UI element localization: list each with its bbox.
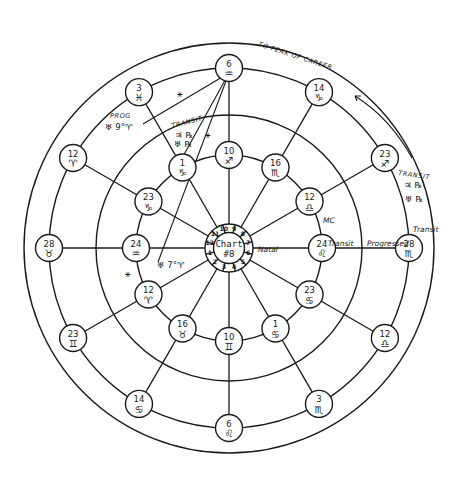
zodiac-sign-icon: ♋ <box>135 404 144 415</box>
zodiac-sign-icon: ♎ <box>380 338 389 349</box>
outer-node: 12♈ <box>60 145 87 172</box>
outer-node: 3♏ <box>306 390 333 417</box>
zodiac-sign-icon: ♏ <box>315 404 324 415</box>
outer-node: 14♋ <box>126 390 153 417</box>
house-number-11: 11 <box>211 230 220 237</box>
degree-value: 16 <box>270 158 281 168</box>
chart-title-line1: Chart <box>215 239 242 249</box>
sextile-symbol-1: ⚹ <box>177 89 183 99</box>
degree-value: 12 <box>143 285 154 295</box>
house-number-7: 7 <box>246 239 250 246</box>
outer-node: 3♓ <box>126 79 153 106</box>
natal-node: 23♑ <box>135 188 162 215</box>
sextile-symbol-2: ⚹ <box>205 130 211 140</box>
degree-value: 6 <box>226 419 231 429</box>
prog-planet: ♅ 9°♈ <box>105 122 133 132</box>
outer-node: 23♊ <box>60 325 87 352</box>
zodiac-sign-icon: ♐ <box>225 155 234 166</box>
natal-node: 24♒ <box>123 235 150 262</box>
zodiac-sign-icon: ♊ <box>225 341 234 352</box>
transit-left-planets-2: ♅ ℞ <box>174 139 192 149</box>
degree-value: 3 <box>316 394 321 404</box>
degree-value: 10 <box>224 146 235 156</box>
degree-value: 12 <box>379 329 390 339</box>
degree-value: 6 <box>226 59 231 69</box>
house-number-3: 3 <box>222 263 226 270</box>
aspect-line-prog <box>143 73 229 124</box>
degree-value: 23 <box>379 149 390 159</box>
natal-node: 12♈ <box>135 281 162 308</box>
degree-value: 1 <box>273 319 278 329</box>
transit-right-planets-2: ♅ ℞ <box>405 194 423 204</box>
zodiac-sign-icon: ♉ <box>178 329 187 340</box>
zodiac-sign-icon: ♐ <box>380 158 389 169</box>
zodiac-sign-icon: ♈ <box>144 295 153 306</box>
degree-value: 1 <box>180 158 185 168</box>
progressed-label: Progressed <box>367 239 409 248</box>
transit-right-planets-1: ♃ ℞ <box>404 180 422 190</box>
degree-value: 3 <box>136 83 141 93</box>
transit-inner-label: Transit <box>328 239 354 248</box>
degree-value: 23 <box>68 329 79 339</box>
zodiac-sign-icon: ♒ <box>132 248 141 259</box>
zodiac-sign-icon: ♑ <box>178 167 187 178</box>
zodiac-sign-icon: ♓ <box>135 92 144 103</box>
house-number-5: 5 <box>241 258 245 265</box>
house-number-8: 8 <box>241 230 245 237</box>
prog-label: PROG <box>110 112 131 120</box>
natal-node: 16♏ <box>262 154 289 181</box>
degree-value: 24 <box>131 239 142 249</box>
zodiac-sign-icon: ♏ <box>405 248 414 259</box>
house-number-10: 10 <box>220 225 229 232</box>
zodiac-sign-icon: ♑ <box>144 202 153 213</box>
natal-label: Natal <box>258 245 279 254</box>
zodiac-sign-icon: ♉ <box>45 248 54 259</box>
zodiac-sign-icon: ♑ <box>315 92 324 103</box>
degree-value: 28 <box>44 239 55 249</box>
degree-value: 12 <box>304 192 315 202</box>
sextile-symbol-left: ⚹ <box>125 269 131 279</box>
uranus-natal: ♅ 7°♈ <box>157 260 185 270</box>
house-number-4: 4 <box>232 263 237 270</box>
mc-label: MC <box>323 216 335 225</box>
natal-node: 23♋ <box>296 281 323 308</box>
house-hub: 123456789101112 Chart #8 <box>205 224 253 272</box>
house-number-9: 9 <box>232 225 236 232</box>
natal-node: 10♐ <box>216 142 243 169</box>
degree-value: 16 <box>177 319 188 329</box>
zodiac-sign-icon: ♌ <box>225 428 234 439</box>
degree-value: 14 <box>134 394 145 404</box>
zodiac-sign-icon: ♌ <box>318 248 327 259</box>
house-number-1: 1 <box>208 249 212 256</box>
astrology-chart: 123456789101112 Chart #8 10♐16♏12♎24♌23♋… <box>0 0 475 489</box>
degree-value: 10 <box>224 332 235 342</box>
degree-value: 24 <box>317 239 328 249</box>
chart-title-line2: #8 <box>224 249 235 259</box>
zodiac-sign-icon: ♋ <box>271 329 280 340</box>
degree-value: 14 <box>314 83 325 93</box>
transit-outer-label: Transit <box>413 225 439 234</box>
career-label: TO PEAK OF CAREER <box>257 40 333 71</box>
degree-value: 23 <box>143 192 154 202</box>
outer-node: 14♑ <box>306 79 333 106</box>
natal-node: 1♋ <box>262 315 289 342</box>
zodiac-sign-icon: ♊ <box>69 338 78 349</box>
zodiac-sign-icon: ♏ <box>271 167 280 178</box>
outer-node: 12♎ <box>371 325 398 352</box>
outer-node: 23♐ <box>371 145 398 172</box>
natal-node: 10♊ <box>216 328 243 355</box>
degree-value: 23 <box>304 285 315 295</box>
zodiac-sign-icon: ♒ <box>225 68 234 79</box>
natal-node: 12♎ <box>296 188 323 215</box>
zodiac-sign-icon: ♈ <box>69 158 78 169</box>
house-number-12: 12 <box>206 239 215 246</box>
house-number-2: 2 <box>213 258 217 265</box>
house-number-6: 6 <box>246 249 250 256</box>
outer-node: 6♌ <box>216 415 243 442</box>
outer-node: 28♉ <box>36 235 63 262</box>
natal-node: 1♑ <box>169 154 196 181</box>
degree-value: 12 <box>68 149 79 159</box>
outer-node: 6♒ <box>216 55 243 82</box>
zodiac-sign-icon: ♋ <box>305 295 314 306</box>
natal-node: 16♉ <box>169 315 196 342</box>
